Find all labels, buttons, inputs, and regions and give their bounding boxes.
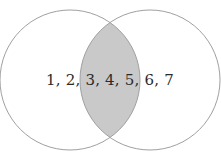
- venn-diagram-canvas: 1, 2, 3, 4, 5, 6, 7: [0, 0, 221, 162]
- venn-diagram-figure: 1, 2, 3, 4, 5, 6, 7: [0, 0, 221, 162]
- venn-elements-label: 1, 2, 3, 4, 5, 6, 7: [46, 71, 174, 89]
